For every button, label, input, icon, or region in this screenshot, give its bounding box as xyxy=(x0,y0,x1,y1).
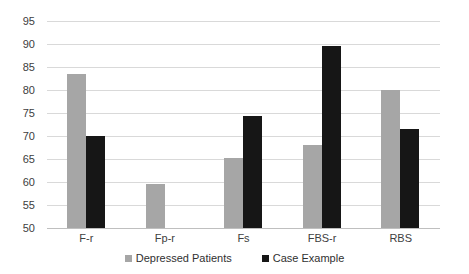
y-axis: 50556065707580859095 xyxy=(0,21,41,228)
legend-swatch-icon xyxy=(262,255,269,262)
y-axis-tick-label: 95 xyxy=(23,16,35,27)
y-axis-tick-label: 75 xyxy=(23,108,35,119)
bars-layer xyxy=(47,21,440,228)
bar-group xyxy=(283,21,362,228)
x-axis-tick-label: RBS xyxy=(389,232,412,244)
bar xyxy=(86,136,105,228)
bar xyxy=(322,46,341,228)
x-axis-tick-label: F-r xyxy=(79,232,93,244)
y-axis-tick-label: 55 xyxy=(23,200,35,211)
y-axis-tick-label: 65 xyxy=(23,154,35,165)
bar xyxy=(400,129,419,228)
bar-chart: 50556065707580859095 F-rFp-rFsFBS-rRBS D… xyxy=(0,0,469,274)
bar-group xyxy=(47,21,126,228)
legend-item[interactable]: Depressed Patients xyxy=(125,252,232,264)
y-axis-tick-label: 50 xyxy=(23,223,35,234)
y-axis-tick-label: 70 xyxy=(23,131,35,142)
x-axis-tick-label: FBS-r xyxy=(308,232,337,244)
bar-group xyxy=(126,21,205,228)
x-axis-tick-label: Fs xyxy=(237,232,249,244)
bar xyxy=(67,74,86,228)
y-axis-tick-label: 80 xyxy=(23,85,35,96)
bar xyxy=(224,158,243,228)
bar-group xyxy=(361,21,440,228)
bar xyxy=(303,145,322,228)
y-axis-tick-label: 60 xyxy=(23,177,35,188)
x-axis: F-rFp-rFsFBS-rRBS xyxy=(47,232,440,248)
bar-group xyxy=(204,21,283,228)
legend-swatch-icon xyxy=(125,255,132,262)
bar xyxy=(381,90,400,228)
legend-label: Case Example xyxy=(273,252,345,264)
x-axis-tick-label: Fp-r xyxy=(155,232,175,244)
gridline-50 xyxy=(47,228,440,229)
legend-item[interactable]: Case Example xyxy=(262,252,345,264)
chart-legend: Depressed PatientsCase Example xyxy=(0,252,469,264)
legend-label: Depressed Patients xyxy=(136,252,232,264)
bar xyxy=(146,184,165,228)
y-axis-tick-label: 85 xyxy=(23,62,35,73)
bar xyxy=(243,116,262,228)
y-axis-tick-label: 90 xyxy=(23,39,35,50)
